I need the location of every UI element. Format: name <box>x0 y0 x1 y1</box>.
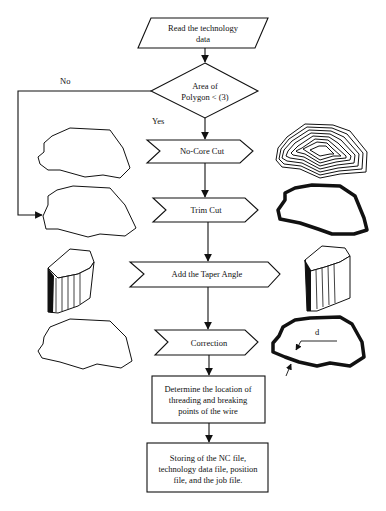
start-node-line2: data <box>196 34 210 44</box>
decision-line1: Area of <box>192 81 218 91</box>
polygon-outline-icon <box>43 186 136 237</box>
process1-line3: points of the wire <box>178 406 238 416</box>
process-determine-threading-points: Determine the location of threading and … <box>152 376 265 423</box>
process-storing-files: Storing of the NC file, technology data … <box>147 443 268 492</box>
trim-cut-outline-icon <box>278 185 367 234</box>
process2-line2: technology data file, position <box>158 464 258 474</box>
correction-offset-illustration: d <box>273 317 364 376</box>
decision-line2: Polygon < (3) <box>181 92 228 102</box>
step-trim-cut-label: Trim Cut <box>190 205 222 215</box>
step-trim-cut: Trim Cut <box>153 198 258 222</box>
process2-line1: Storing of the NC file, <box>170 453 246 463</box>
step-no-core-cut-label: No-Core Cut <box>180 146 225 156</box>
yes-label: Yes <box>152 116 164 126</box>
polygon-outline-icon <box>38 319 132 369</box>
start-node-read-technology-data: Read the technology data <box>138 18 268 48</box>
tapered-solid-right-icon <box>305 246 350 311</box>
start-node-line1: Read the technology <box>168 23 239 33</box>
flowchart-diagram: Read the technology data Area of Polygon… <box>0 0 386 511</box>
decision-node-area-of-polygon: Area of Polygon < (3) <box>151 63 258 118</box>
step-correction: Correction <box>155 330 258 355</box>
process1-line2: threading and breaking <box>169 395 248 405</box>
process1-line1: Determine the location of <box>164 384 251 394</box>
polygon-outline-icon <box>38 128 130 178</box>
step-correction-label: Correction <box>191 338 228 348</box>
no-label: No <box>60 76 70 86</box>
step-no-core-cut: No-Core Cut <box>147 140 253 163</box>
tapered-solid-icon <box>48 249 94 313</box>
process2-line3: file, and the job file. <box>174 475 243 485</box>
step-add-taper-angle-label: Add the Taper Angle <box>172 269 243 279</box>
concentric-offset-paths-icon <box>276 124 367 178</box>
step-add-taper-angle: Add the Taper Angle <box>130 262 280 287</box>
